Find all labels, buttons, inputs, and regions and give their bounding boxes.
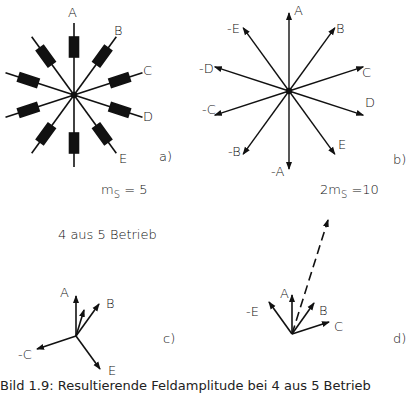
- label-b-neg-A: -A: [271, 165, 284, 178]
- panel-b-tag: b): [393, 153, 406, 166]
- label-d-A: A: [280, 287, 289, 300]
- label-b-neg-B: -B: [228, 145, 241, 158]
- label-b-neg-E: -E: [227, 22, 240, 35]
- label-a-C: C: [143, 64, 152, 77]
- label-b-E: E: [338, 138, 346, 151]
- panel-a-winding-star: [4, 23, 144, 167]
- label-d-B: B: [319, 304, 328, 317]
- panel-c-phasors: [37, 296, 100, 369]
- label-b-neg-D: -D: [199, 62, 214, 75]
- label-a-D: D: [143, 110, 153, 123]
- label-a-B: B: [114, 24, 123, 37]
- label-a-E: E: [119, 152, 127, 165]
- panel-c-tag: c): [163, 332, 175, 345]
- label-b-A: A: [294, 4, 303, 17]
- label-b-B: B: [336, 22, 345, 35]
- panel-a-formula: mS = 5: [101, 183, 147, 200]
- figure-caption: Bild 1.9: Resultierende Feldamplitude be…: [0, 378, 371, 393]
- label-c-A: A: [60, 286, 69, 299]
- label-d-C: C: [334, 320, 343, 333]
- panel-d-tag: d): [393, 332, 406, 345]
- label-c-E: E: [108, 364, 116, 377]
- panel-a-tag: a): [159, 150, 172, 163]
- label-d-neg-E: -E: [246, 305, 259, 318]
- label-b-D: D: [365, 96, 375, 109]
- label-b-C: C: [362, 66, 371, 79]
- label-a-A: A: [68, 6, 77, 19]
- label-c-B: B: [106, 297, 115, 310]
- panel-b-formula: 2mS =10: [320, 183, 379, 200]
- label-c-neg-C: -C: [18, 348, 32, 361]
- label-b-neg-C: -C: [202, 103, 216, 116]
- mode-label: 4 aus 5 Betrieb: [58, 228, 157, 241]
